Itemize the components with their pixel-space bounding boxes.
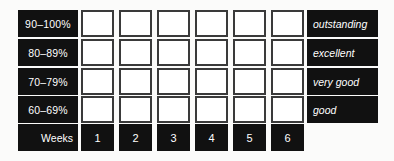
check-cell-band2-week4[interactable] [195,68,228,95]
check-cell-band3-week5[interactable] [233,96,266,123]
grade-tracker-chart: 90–100% outstanding 80–89% excellent 70–… [18,10,378,150]
check-cell-band2-week5[interactable] [233,68,266,95]
week-number-1[interactable]: 1 [81,124,114,151]
check-cell-band3-week1[interactable] [81,96,114,123]
band-range-label-1: 80–89% [18,39,78,66]
week-number-4[interactable]: 4 [195,124,228,151]
week-number-2[interactable]: 2 [119,124,152,151]
band-descriptor-label-2: very good [307,68,378,95]
checkbox-cell-group-3 [81,96,304,123]
week-number-6[interactable]: 6 [271,124,304,151]
band-descriptor-label-0: outstanding [307,10,378,37]
band-range-label-0: 90–100% [18,10,78,37]
band-range-label-2: 70–79% [18,68,78,95]
check-cell-band3-week3[interactable] [157,96,190,123]
check-cell-band2-week2[interactable] [119,68,152,95]
check-cell-band1-week3[interactable] [157,39,190,66]
checkbox-cell-group-0 [81,10,304,37]
check-cell-band2-week3[interactable] [157,68,190,95]
check-cell-band0-week1[interactable] [81,10,114,37]
check-cell-band0-week3[interactable] [157,10,190,37]
check-cell-band1-week1[interactable] [81,39,114,66]
band-descriptor-label-3: good [307,96,378,123]
check-cell-band3-week6[interactable] [271,96,304,123]
grade-band-row: 80–89% excellent [18,39,378,66]
grade-band-row: 70–79% very good [18,68,378,95]
check-cell-band3-week2[interactable] [119,96,152,123]
band-range-label-3: 60–69% [18,96,78,123]
week-number-5[interactable]: 5 [233,124,266,151]
weeks-caption-label: Weeks [18,124,78,151]
check-cell-band1-week5[interactable] [233,39,266,66]
check-cell-band3-week4[interactable] [195,96,228,123]
grade-band-row: 90–100% outstanding [18,10,378,37]
week-number-group: 1 2 3 4 5 6 [81,124,304,151]
check-cell-band1-week2[interactable] [119,39,152,66]
band-descriptor-label-1: excellent [307,39,378,66]
check-cell-band0-week4[interactable] [195,10,228,37]
check-cell-band2-week6[interactable] [271,68,304,95]
check-cell-band1-week4[interactable] [195,39,228,66]
weeks-axis-row: Weeks 1 2 3 4 5 6 [18,124,378,151]
check-cell-band0-week6[interactable] [271,10,304,37]
week-number-3[interactable]: 3 [157,124,190,151]
check-cell-band0-week5[interactable] [233,10,266,37]
check-cell-band1-week6[interactable] [271,39,304,66]
check-cell-band0-week2[interactable] [119,10,152,37]
checkbox-cell-group-2 [81,68,304,95]
check-cell-band2-week1[interactable] [81,68,114,95]
checkbox-cell-group-1 [81,39,304,66]
grade-band-row: 60–69% good [18,96,378,123]
